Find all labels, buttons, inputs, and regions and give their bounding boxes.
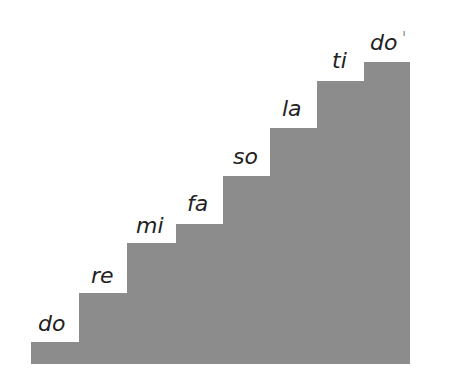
step-label-ti: ti bbox=[332, 50, 347, 72]
octave-prime-mark: ˡ bbox=[403, 29, 405, 43]
staircase-shape bbox=[31, 62, 410, 364]
step-label-fa: fa bbox=[187, 193, 208, 215]
staircase-diagram bbox=[0, 0, 451, 386]
step-label-do: do bbox=[38, 313, 65, 335]
step-label-so: so bbox=[233, 146, 258, 168]
step-label-la: la bbox=[282, 98, 302, 120]
step-label-high-do: do bbox=[370, 32, 397, 54]
step-label-re: re bbox=[91, 265, 114, 287]
step-label-mi: mi bbox=[136, 215, 164, 237]
